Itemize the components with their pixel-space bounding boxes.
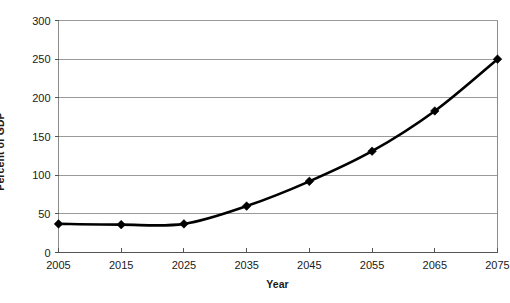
y-tick-label-0: 0: [44, 247, 50, 259]
series-line-percent-of-gdp: [59, 59, 498, 225]
x-tick-label-2055: 2055: [360, 259, 384, 271]
x-tick-label-2065: 2065: [423, 259, 447, 271]
x-tick-label-2015: 2015: [109, 259, 133, 271]
plot-area: 050100150200250300 200520152025203520452…: [0, 0, 510, 303]
data-point-2005: [54, 220, 63, 229]
gridlines-group: [59, 21, 498, 214]
y-tick-marks: [55, 21, 59, 253]
y-tick-label-250: 250: [32, 53, 50, 65]
x-tick-label-2035: 2035: [234, 259, 258, 271]
y-tick-label-300: 300: [32, 15, 50, 27]
x-tick-labels: 20052015202520352045205520652075: [46, 259, 509, 271]
y-tick-label-50: 50: [38, 208, 50, 220]
data-point-2035: [242, 202, 251, 211]
data-point-2045: [305, 177, 314, 186]
x-tick-label-2045: 2045: [297, 259, 321, 271]
y-tick-label-200: 200: [32, 92, 50, 104]
data-series-line: [59, 59, 498, 225]
x-tick-label-2025: 2025: [172, 259, 196, 271]
data-point-2025: [180, 220, 189, 229]
y-tick-label-100: 100: [32, 169, 50, 181]
y-tick-label-150: 150: [32, 131, 50, 143]
line-chart-figure: Percent of GDP Year 050100150200250300 2…: [0, 0, 510, 303]
x-tick-marks: [59, 248, 498, 253]
y-tick-labels: 050100150200250300: [32, 15, 50, 259]
data-point-2015: [117, 220, 126, 229]
x-tick-label-2005: 2005: [46, 259, 70, 271]
data-point-markers: [54, 55, 502, 229]
x-tick-label-2075: 2075: [485, 259, 509, 271]
